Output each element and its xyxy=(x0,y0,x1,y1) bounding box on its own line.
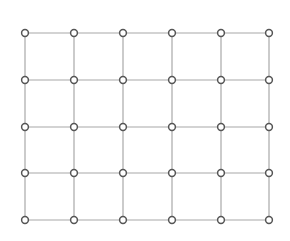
grid-node-circle-icon xyxy=(22,217,29,224)
grid-node-circle-icon xyxy=(71,217,78,224)
grid-edges xyxy=(25,33,269,220)
grid-node-circle-icon xyxy=(266,30,273,37)
grid-graph-svg xyxy=(0,0,290,241)
grid-node-circle-icon xyxy=(71,77,78,84)
grid-node-circle-icon xyxy=(218,170,225,177)
grid-node-circle-icon xyxy=(71,30,78,37)
grid-node-circle-icon xyxy=(218,217,225,224)
grid-node-circle-icon xyxy=(22,77,29,84)
grid-node-circle-icon xyxy=(266,170,273,177)
grid-node-circle-icon xyxy=(266,77,273,84)
grid-node-circle-icon xyxy=(120,77,127,84)
grid-node-circle-icon xyxy=(266,124,273,131)
grid-node-circle-icon xyxy=(169,170,176,177)
grid-node-circle-icon xyxy=(218,124,225,131)
grid-node-circle-icon xyxy=(266,217,273,224)
grid-node-circle-icon xyxy=(169,217,176,224)
grid-node-circle-icon xyxy=(169,124,176,131)
grid-node-circle-icon xyxy=(120,217,127,224)
grid-node-circle-icon xyxy=(22,124,29,131)
grid-node-circle-icon xyxy=(120,170,127,177)
grid-node-circle-icon xyxy=(71,124,78,131)
grid-node-circle-icon xyxy=(22,170,29,177)
grid-node-circle-icon xyxy=(169,77,176,84)
grid-node-circle-icon xyxy=(22,30,29,37)
grid-node-circle-icon xyxy=(169,30,176,37)
grid-node-circle-icon xyxy=(120,124,127,131)
grid-node-circle-icon xyxy=(218,77,225,84)
grid-node-circle-icon xyxy=(218,30,225,37)
grid-diagram xyxy=(0,0,290,241)
grid-node-circle-icon xyxy=(120,30,127,37)
grid-node-circle-icon xyxy=(71,170,78,177)
